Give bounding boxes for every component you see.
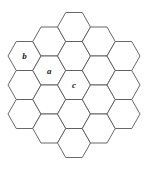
hexagon-cell-label: a <box>47 66 52 76</box>
hexagon-grid-diagram: bac <box>0 0 165 186</box>
hexagon-cell-label: b <box>22 51 27 61</box>
hexagon-cell-label: c <box>72 80 76 90</box>
hexagon-grid-canvas: bac <box>0 0 165 186</box>
